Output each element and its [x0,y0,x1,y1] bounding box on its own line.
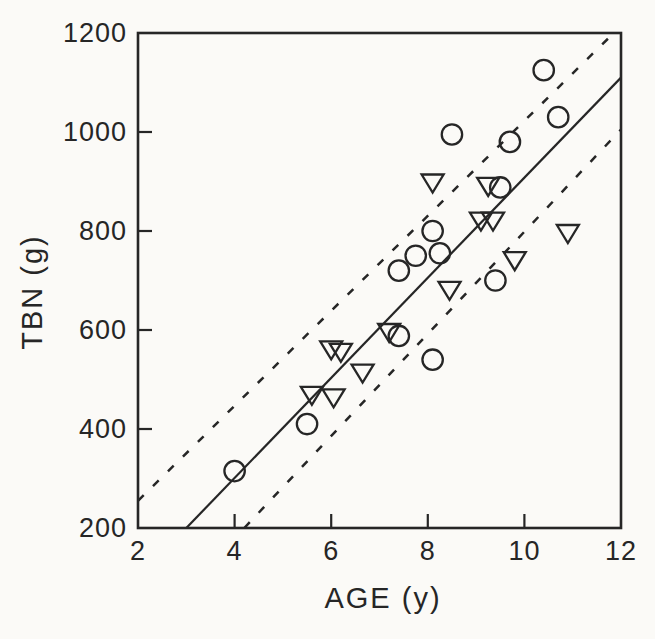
circle-marker [485,270,505,290]
ticks-layer [139,132,524,527]
y-axis-label: TBN (g) [16,234,48,350]
x-tick-label: 2 [130,536,146,566]
scatter-figure: 2468101220040060080010001200 AGE (y) TBN… [0,0,655,639]
triangle-marker [439,282,461,300]
regression-line [186,78,621,528]
circle-marker [406,246,426,266]
x-tick-label: 12 [605,536,637,566]
y-tick-label: 400 [79,414,127,444]
triangle-marker [557,225,579,243]
chart-canvas: 2468101220040060080010001200 AGE (y) TBN… [0,0,655,639]
triangle-marker [504,252,526,270]
triangle-marker [323,389,345,407]
data-points-layer [224,60,578,481]
circle-marker [548,107,568,127]
circle-marker [297,414,317,434]
x-axis-label: AGE (y) [324,582,441,614]
fit-lines-layer [138,33,621,528]
circle-marker [430,243,450,263]
y-tick-label: 600 [79,315,127,345]
y-tick-label: 200 [79,513,127,543]
lower-confidence-line [244,130,621,528]
circle-marker [534,60,554,80]
triangle-marker [422,174,444,192]
triangle-marker [352,365,374,383]
y-tick-label: 1000 [63,117,127,147]
plot-frame [138,33,621,528]
circle-marker [422,350,442,370]
x-tick-label: 6 [323,536,339,566]
upper-confidence-line [138,33,614,501]
circle-marker [422,221,442,241]
y-tick-label: 800 [79,216,127,246]
y-tick-label: 1200 [63,18,127,48]
circle-marker [442,124,462,144]
circle-marker [389,260,409,280]
x-tick-label: 4 [227,536,243,566]
x-tick-label: 10 [508,536,540,566]
triangle-marker [477,178,499,196]
x-tick-label: 8 [420,536,436,566]
